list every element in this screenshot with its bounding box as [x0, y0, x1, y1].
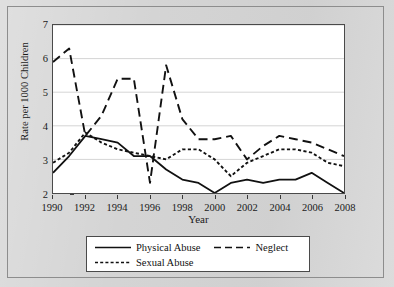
- legend-label-sexual-abuse: Sexual Abuse: [136, 257, 193, 268]
- chart-legend: Physical Abuse Neglect Sexual Abuse: [86, 236, 310, 272]
- x-tick-mark-1998: [182, 195, 183, 199]
- x-tick-label-2002: 2002: [237, 202, 258, 213]
- chart-plot-svg: [53, 25, 344, 193]
- x-tick-label-2008: 2008: [335, 202, 356, 213]
- legend-swatch-solid: [95, 243, 131, 252]
- legend-swatch-dotted: [95, 258, 131, 267]
- series-line-sexual-abuse: [53, 133, 344, 177]
- x-tick-mark-1990: [52, 195, 53, 199]
- x-axis-title: Year: [52, 213, 345, 225]
- x-tick-mark-1996: [150, 195, 151, 199]
- x-tick-mark-2004: [280, 195, 281, 199]
- x-tick-mark-2000: [215, 195, 216, 199]
- x-tick-mark-2002: [247, 195, 248, 199]
- x-tick-label-2004: 2004: [269, 202, 290, 213]
- x-tick-label-1994: 1994: [107, 202, 128, 213]
- x-tick-label-1992: 1992: [74, 202, 95, 213]
- plot-area: [52, 24, 345, 194]
- chart-figure: 234567 199019921994199619982000200220042…: [0, 0, 394, 287]
- y-axis-title: Rate per 1000 Children: [19, 27, 30, 157]
- series-line-neglect: [53, 49, 344, 183]
- x-tick-label-1998: 1998: [172, 202, 193, 213]
- legend-label-neglect: Neglect: [255, 242, 288, 253]
- x-tick-mark-2008: [345, 195, 346, 199]
- legend-swatch-dashed: [214, 243, 250, 252]
- y-tick-label-2: 2: [26, 189, 48, 200]
- x-tick-label-1990: 1990: [42, 202, 63, 213]
- x-tick-label-1996: 1996: [139, 202, 160, 213]
- x-tick-mark-1994: [117, 195, 118, 199]
- legend-label-physical-abuse: Physical Abuse: [136, 242, 200, 253]
- x-tick-mark-2006: [312, 195, 313, 199]
- x-tick-label-2006: 2006: [302, 202, 323, 213]
- legend-row-1: Physical Abuse Neglect: [95, 240, 301, 255]
- legend-row-2: Sexual Abuse: [95, 255, 301, 270]
- series-line-physical-abuse: [53, 136, 344, 193]
- legend-item-physical-abuse: Physical Abuse: [95, 242, 200, 253]
- legend-item-neglect: Neglect: [214, 242, 288, 253]
- x-tick-label-2000: 2000: [204, 202, 225, 213]
- legend-item-sexual-abuse: Sexual Abuse: [95, 257, 193, 268]
- x-tick-mark-1992: [85, 195, 86, 199]
